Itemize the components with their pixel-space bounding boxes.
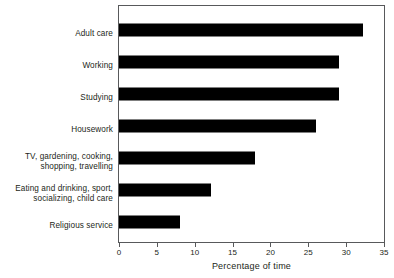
x-axis-tick-mark xyxy=(157,243,158,247)
x-axis-tick-label: 20 xyxy=(266,248,275,257)
y-axis-label: Eating and drinking, sport, socializing,… xyxy=(0,183,113,204)
y-axis-label: Housework xyxy=(0,124,113,135)
x-axis-tick-mark xyxy=(346,243,347,247)
x-axis-tick-mark xyxy=(195,243,196,247)
x-axis-tick-label: 25 xyxy=(304,248,313,257)
x-axis-title: Percentage of time xyxy=(118,261,385,271)
x-axis: 05101520253035 xyxy=(118,243,385,263)
y-axis-label: TV, gardening, cooking, shopping, travel… xyxy=(0,151,113,172)
x-axis-tick-label: 15 xyxy=(228,248,237,257)
plot-frame xyxy=(118,5,385,243)
x-axis-tick-label: 0 xyxy=(117,248,121,257)
x-axis-tick-mark xyxy=(233,243,234,247)
bar-studying xyxy=(119,87,339,100)
x-axis-tick-mark xyxy=(308,243,309,247)
bar-tv-gardening xyxy=(119,151,255,164)
x-axis-tick-label: 30 xyxy=(342,248,351,257)
y-axis-label: Religious service xyxy=(0,220,113,231)
x-axis-tick-label: 5 xyxy=(155,248,159,257)
x-axis-tick-mark xyxy=(384,243,385,247)
x-axis-tick-label: 10 xyxy=(190,248,199,257)
bar-eating-drinking xyxy=(119,183,211,196)
bar-working xyxy=(119,55,339,68)
x-axis-tick-mark xyxy=(270,243,271,247)
plot-area xyxy=(119,6,384,242)
bar-housework xyxy=(119,119,316,132)
y-axis-label: Working xyxy=(0,60,113,71)
x-axis-tick-label: 35 xyxy=(380,248,389,257)
y-axis-label: Adult care xyxy=(0,28,113,39)
x-axis-tick-mark xyxy=(119,243,120,247)
bar-chart-figure: Adult care Working Studying Housework TV… xyxy=(0,0,394,278)
bar-adult-care xyxy=(119,23,363,36)
y-axis-label: Studying xyxy=(0,92,113,103)
y-axis-category-labels: Adult care Working Studying Housework TV… xyxy=(0,5,113,243)
bar-religious-service xyxy=(119,215,180,228)
